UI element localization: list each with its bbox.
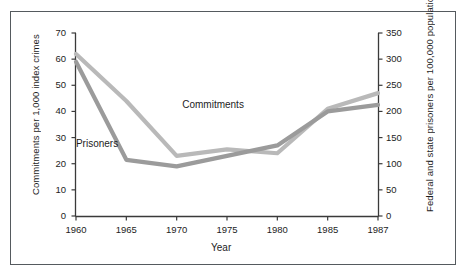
x-tick-label: 1980 xyxy=(257,224,297,235)
left-tick-label: 10 xyxy=(44,184,66,195)
right-tick-label: 50 xyxy=(386,184,412,195)
plot-area: Commitments per 1,000 index crimes Feder… xyxy=(0,0,475,280)
left-tick-label: 40 xyxy=(44,105,66,116)
left-axis-title: Commitments per 1,000 index crimes xyxy=(30,55,41,195)
x-tick-label: 1970 xyxy=(157,224,197,235)
x-tick-label: 1975 xyxy=(207,224,247,235)
right-axis-title: Federal and state prisoners per 100,000 … xyxy=(424,42,435,212)
chart-figure: Commitments per 1,000 index crimes Feder… xyxy=(0,0,475,280)
right-tick-label: 100 xyxy=(386,158,412,169)
left-tick-label: 0 xyxy=(44,210,66,221)
left-tick-label: 50 xyxy=(44,79,66,90)
left-tick-label: 20 xyxy=(44,158,66,169)
x-tick-label: 1987 xyxy=(358,224,398,235)
x-tick-label: 1985 xyxy=(308,224,348,235)
right-tick-label: 350 xyxy=(386,27,412,38)
right-tick-label: 300 xyxy=(386,53,412,64)
right-tick-label: 200 xyxy=(386,105,412,116)
annotation-commitments: Commitments xyxy=(182,99,244,110)
right-tick-label: 150 xyxy=(386,132,412,143)
left-tick-label: 70 xyxy=(44,27,66,38)
left-tick-label: 60 xyxy=(44,53,66,64)
annotation-prisoners: Prisoners xyxy=(76,138,118,149)
left-tick-label: 30 xyxy=(44,132,66,143)
right-tick-label: 0 xyxy=(386,210,412,221)
x-tick-label: 1965 xyxy=(106,224,146,235)
x-tick-label: 1960 xyxy=(56,224,96,235)
right-tick-label: 250 xyxy=(386,79,412,90)
x-axis-title: Year xyxy=(211,242,231,253)
